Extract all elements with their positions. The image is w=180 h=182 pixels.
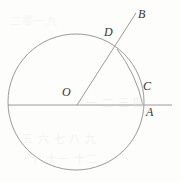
point-label-O: O (62, 86, 71, 98)
geometry-canvas (0, 0, 180, 182)
point-label-A: A (146, 106, 153, 118)
point-label-B: B (138, 8, 145, 20)
geometry-figure: 一 二 三 四 五 六 七 八 九 十 十一 十二 二零一九 B D O C A (0, 0, 180, 182)
point-label-C: C (143, 80, 151, 92)
point-label-D: D (104, 26, 113, 38)
main-circle (8, 34, 144, 170)
